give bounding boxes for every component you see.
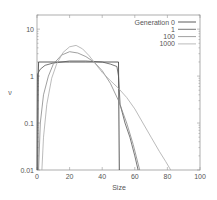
x-tick-label: 0 (35, 173, 39, 180)
series-line (39, 52, 140, 170)
legend-label: 1 (171, 26, 175, 33)
y-tick-label: 1 (30, 73, 34, 80)
x-axis-ticks: 020406080100 (35, 15, 206, 180)
legend-label: Generation 0 (135, 19, 176, 26)
series-lines (37, 45, 171, 170)
y-tick-label: 0.01 (20, 167, 34, 174)
series-line (42, 45, 171, 170)
x-tick-label: 60 (131, 173, 139, 180)
legend-label: 1000 (159, 40, 175, 47)
y-tick-label: 10 (26, 26, 34, 33)
x-tick-label: 80 (164, 173, 172, 180)
legend-label: 100 (163, 33, 175, 40)
x-tick-label: 20 (66, 173, 74, 180)
x-tick-label: 100 (194, 173, 206, 180)
x-tick-label: 40 (98, 173, 106, 180)
y-axis-label: ν (8, 89, 12, 96)
y-tick-label: 0.1 (24, 120, 34, 127)
x-axis-label: Size (112, 184, 126, 191)
line-chart: 020406080100 0.010.1110 Generation 01100… (0, 0, 217, 200)
legend: Generation 011001000 (135, 19, 196, 48)
